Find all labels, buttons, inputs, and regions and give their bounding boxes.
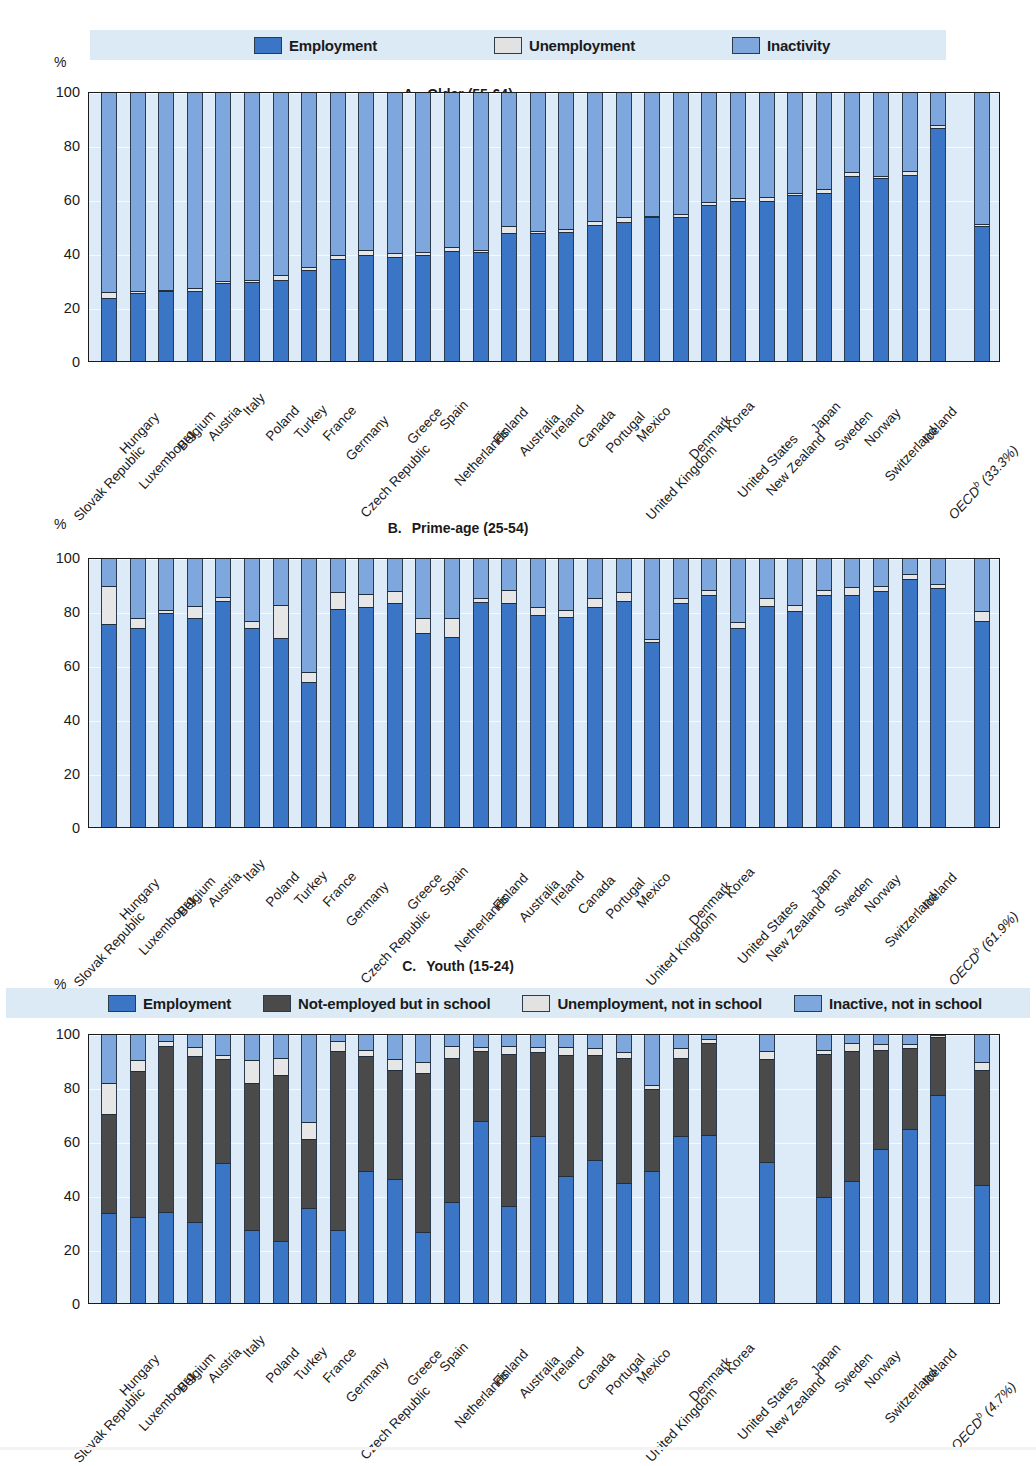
bar-segment xyxy=(358,256,374,361)
stacked-bar xyxy=(816,558,832,827)
stacked-bar xyxy=(673,1034,689,1303)
stacked-bar xyxy=(501,92,517,361)
bar-segment xyxy=(759,1052,775,1060)
bar-segment xyxy=(701,1136,717,1303)
bar-segment xyxy=(759,1163,775,1303)
employment-swatch-icon xyxy=(108,995,136,1012)
stacked-bar xyxy=(902,558,918,827)
stacked-bar xyxy=(158,558,174,827)
bar-segment xyxy=(501,591,517,605)
stacked-bar xyxy=(187,1034,203,1303)
bar-segment xyxy=(930,126,946,129)
bar-segment xyxy=(358,1051,374,1058)
bar-segment xyxy=(158,1213,174,1303)
bar-segment xyxy=(158,611,174,614)
bar-segment xyxy=(844,1052,860,1182)
bar-segment xyxy=(759,1060,775,1163)
panel-b-title-text: Prime-age (25-54) xyxy=(412,520,529,536)
bar-segment xyxy=(873,92,889,177)
bar-segment xyxy=(358,1034,374,1051)
y-tick-label: 60 xyxy=(40,1134,80,1150)
bar-segment xyxy=(101,587,117,625)
stacked-bar xyxy=(930,92,946,361)
stacked-bar xyxy=(301,1034,317,1303)
bar-segment xyxy=(244,92,260,281)
bar-segment xyxy=(816,92,832,190)
bar-segment xyxy=(974,612,990,621)
bar-segment xyxy=(244,1034,260,1061)
bar-segment xyxy=(930,558,946,585)
stacked-bar xyxy=(787,92,803,361)
bar-segment xyxy=(444,248,460,252)
bar-segment xyxy=(644,1086,660,1090)
bar-segment xyxy=(101,299,117,361)
bar-segment xyxy=(902,1034,918,1045)
bar-segment xyxy=(974,622,990,827)
bar-segment xyxy=(730,199,746,201)
bar-segment xyxy=(187,558,203,607)
bar-segment xyxy=(101,558,117,587)
bar-segment xyxy=(330,1034,346,1042)
bar-segment xyxy=(759,202,775,361)
bar-segment xyxy=(816,591,832,596)
bar-segment xyxy=(616,602,632,827)
stacked-bar xyxy=(530,92,546,361)
bar-segment xyxy=(558,1034,574,1048)
stacked-bar xyxy=(501,1034,517,1303)
bar-segment xyxy=(530,92,546,232)
stacked-bar xyxy=(473,558,489,827)
inactivity-swatch-icon xyxy=(794,995,822,1012)
stacked-bar xyxy=(330,1034,346,1303)
bar-segment xyxy=(187,1048,203,1057)
panel-c-letter: C. xyxy=(402,958,416,974)
x-axis-label: Japan xyxy=(807,865,843,902)
stacked-bar xyxy=(759,558,775,827)
bar-segment xyxy=(444,1203,460,1303)
bar-segment xyxy=(273,558,289,606)
bar-segment xyxy=(387,1034,403,1060)
bar-segment xyxy=(844,1034,860,1044)
bar-segment xyxy=(873,1045,889,1050)
bar-segment xyxy=(273,606,289,640)
stacked-bar xyxy=(558,1034,574,1303)
bar-segment xyxy=(301,1209,317,1304)
stacked-bar xyxy=(244,92,260,361)
bar-segment xyxy=(415,253,431,256)
stacked-bar xyxy=(616,558,632,827)
bar-segment xyxy=(130,558,146,619)
bar-segment xyxy=(974,1034,990,1063)
x-axis-label: Italy xyxy=(240,390,268,418)
stacked-bar xyxy=(530,558,546,827)
bar-segment xyxy=(616,1034,632,1053)
bar-segment xyxy=(759,607,775,827)
bar-segment xyxy=(701,1040,717,1044)
bar-segment xyxy=(301,683,317,827)
bar-segment xyxy=(787,558,803,606)
stacked-bar xyxy=(644,1034,660,1303)
bar-segment xyxy=(902,580,918,827)
bar-segment xyxy=(873,1034,889,1045)
bar-segment xyxy=(587,599,603,608)
bar-segment xyxy=(587,558,603,599)
stacked-bar xyxy=(816,1034,832,1303)
legend-item-unemployment: Unemployment xyxy=(468,37,708,54)
bar-segment xyxy=(816,1055,832,1198)
bar-segment xyxy=(902,558,918,575)
bar-segment xyxy=(558,618,574,827)
stacked-bar xyxy=(644,92,660,361)
stacked-bar xyxy=(273,92,289,361)
bar-segment xyxy=(415,1074,431,1233)
bar-segment xyxy=(273,92,289,276)
bar-segment xyxy=(530,1137,546,1303)
bar-segment xyxy=(301,271,317,361)
y-tick-label: 80 xyxy=(40,1080,80,1096)
bar-segment xyxy=(130,629,146,827)
stacked-bar xyxy=(130,92,146,361)
bar-segment xyxy=(415,619,431,634)
bar-segment xyxy=(187,292,203,361)
bar-segment xyxy=(415,1063,431,1074)
x-axis-label: Poland xyxy=(262,403,302,444)
inactivity-swatch-icon xyxy=(732,37,760,54)
bar-segment xyxy=(787,92,803,194)
bar-segment xyxy=(844,596,860,827)
